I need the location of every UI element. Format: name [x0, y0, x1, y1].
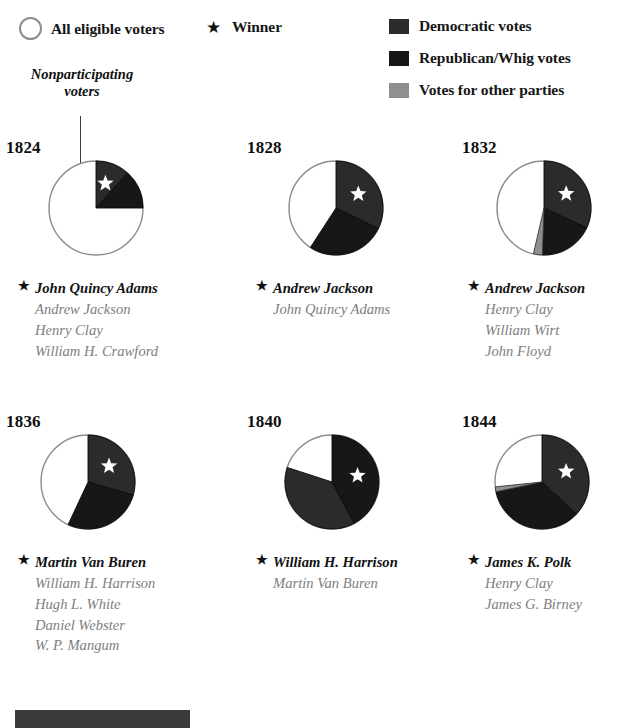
candidate-row: W. P. Mangum [18, 635, 190, 656]
candidate-list: ★Andrew JacksonHenry ClayWilliam WirtJoh… [468, 278, 624, 361]
swatch-republican-icon [389, 51, 409, 66]
pie-chart-1824 [0, 160, 190, 266]
candidate-name: Henry Clay [485, 575, 553, 591]
candidate-list: ★William H. HarrisonMartin Van Buren [256, 552, 428, 594]
pie-svg [48, 160, 148, 260]
candidate-list: ★John Quincy AdamsAndrew JacksonHenry Cl… [18, 278, 190, 361]
candidate-row: Henry Clay [468, 573, 624, 594]
candidate-name: Andrew Jackson [35, 301, 131, 317]
legend-item-winner: ★ Winner [206, 18, 282, 36]
nonparticipating-voters-callout: Nonparticipating voters [7, 66, 157, 100]
candidate-name: Hugh L. White [35, 596, 121, 612]
candidate-row: Daniel Webster [18, 615, 190, 636]
legend-label-all-voters: All eligible voters [51, 20, 164, 38]
year-label: 1828 [247, 138, 428, 160]
candidate-row: Hugh L. White [18, 594, 190, 615]
star-icon: ★ [468, 278, 480, 296]
candidate-name: Daniel Webster [35, 617, 125, 633]
star-icon: ★ [206, 19, 221, 36]
candidate-row: William H. Crawford [18, 341, 190, 362]
pie-svg [40, 434, 140, 534]
year-label: 1840 [247, 412, 428, 434]
star-icon: ★ [18, 552, 30, 570]
legend-item-other: Votes for other parties [389, 81, 564, 99]
open-circle-icon [19, 17, 42, 40]
candidate-row-winner: ★William H. Harrison [256, 552, 428, 573]
election-cell-1840: 1840 ★William H. HarrisonMartin Van Bure… [238, 412, 428, 594]
candidate-row: Henry Clay [18, 320, 190, 341]
legend-item-republican: Republican/Whig votes [389, 49, 571, 67]
legend-label-other: Votes for other parties [419, 81, 564, 99]
candidate-list: ★Martin Van BurenWilliam H. HarrisonHugh… [18, 552, 190, 656]
candidate-name: Martin Van Buren [35, 554, 146, 570]
candidate-row-winner: ★John Quincy Adams [18, 278, 190, 299]
candidate-row: Andrew Jackson [18, 299, 190, 320]
candidate-list: ★James K. PolkHenry ClayJames G. Birney [468, 552, 624, 615]
callout-line-1: Nonparticipating [7, 66, 157, 83]
election-cell-1844: 1844 ★James K. PolkHenry ClayJames G. Bi… [448, 412, 624, 615]
pie-chart-1840 [238, 434, 428, 540]
star-icon: ★ [468, 552, 480, 570]
pie-chart-1844 [448, 434, 624, 540]
candidate-row: Martin Van Buren [256, 573, 428, 594]
year-label: 1824 [6, 138, 190, 160]
legend: All eligible voters ★ Winner Democratic … [0, 0, 624, 118]
legend-label-republican: Republican/Whig votes [419, 49, 571, 67]
candidate-name: Andrew Jackson [273, 280, 373, 296]
candidate-name: John Quincy Adams [273, 301, 390, 317]
pie-chart-1836 [0, 434, 190, 540]
candidate-row: Henry Clay [468, 299, 624, 320]
candidate-name: William Wirt [485, 322, 559, 338]
swatch-democratic-icon [389, 19, 409, 34]
candidate-row-winner: ★Andrew Jackson [468, 278, 624, 299]
candidate-name: Henry Clay [35, 322, 103, 338]
candidate-name: John Floyd [485, 343, 551, 359]
candidate-row: John Floyd [468, 341, 624, 362]
candidate-row: William H. Harrison [18, 573, 190, 594]
candidate-name: William H. Harrison [35, 575, 155, 591]
pie-chart-1832 [448, 160, 624, 266]
election-cell-1828: 1828 ★Andrew JacksonJohn Quincy Adams [238, 138, 428, 320]
candidate-row-winner: ★James K. Polk [468, 552, 624, 573]
candidate-name: William H. Crawford [35, 343, 158, 359]
candidate-name: James G. Birney [485, 596, 582, 612]
pie-svg [496, 160, 596, 260]
legend-item-all-voters: All eligible voters [19, 17, 164, 40]
candidate-name: John Quincy Adams [35, 280, 158, 296]
bottom-bar [15, 710, 190, 728]
candidate-row-winner: ★Martin Van Buren [18, 552, 190, 573]
candidate-row: William Wirt [468, 320, 624, 341]
pie-chart-1828 [238, 160, 428, 266]
pie-svg [284, 434, 384, 534]
legend-label-winner: Winner [232, 18, 282, 36]
candidate-row-winner: ★Andrew Jackson [256, 278, 428, 299]
election-cell-1836: 1836 ★Martin Van BurenWilliam H. Harriso… [0, 412, 190, 656]
candidate-name: Henry Clay [485, 301, 553, 317]
year-label: 1844 [462, 412, 624, 434]
pie-svg [494, 434, 594, 534]
legend-item-democratic: Democratic votes [389, 17, 531, 35]
candidate-name: William H. Harrison [273, 554, 398, 570]
candidate-name: Andrew Jackson [485, 280, 585, 296]
star-icon: ★ [256, 278, 268, 296]
candidate-row: John Quincy Adams [256, 299, 428, 320]
year-label: 1836 [6, 412, 190, 434]
pie-svg [288, 160, 388, 260]
legend-label-democratic: Democratic votes [419, 17, 531, 35]
swatch-other-icon [389, 83, 409, 98]
election-cell-1832: 1832 ★Andrew JacksonHenry ClayWilliam Wi… [448, 138, 624, 361]
star-icon: ★ [256, 552, 268, 570]
election-cell-1824: 1824 ★John Quincy AdamsAndrew JacksonHen… [0, 138, 190, 361]
candidate-name: W. P. Mangum [35, 637, 119, 653]
year-label: 1832 [462, 138, 624, 160]
candidate-row: James G. Birney [468, 594, 624, 615]
callout-line-2: voters [7, 83, 157, 100]
star-icon: ★ [18, 278, 30, 296]
candidate-name: Martin Van Buren [273, 575, 378, 591]
candidate-name: James K. Polk [485, 554, 571, 570]
candidate-list: ★Andrew JacksonJohn Quincy Adams [256, 278, 428, 320]
